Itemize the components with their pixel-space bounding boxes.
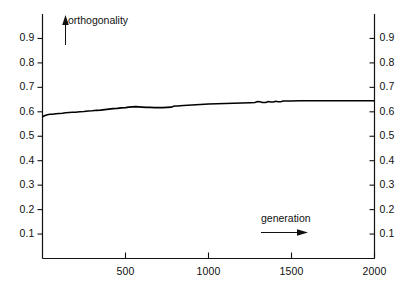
y-tick-label-left-0.7: 0.7 <box>5 81 35 92</box>
y-tick-label-right-0.9: 0.9 <box>380 32 403 43</box>
y-tick-label-right-0.3: 0.3 <box>380 179 403 190</box>
x-tick-label-1500: 1500 <box>272 266 312 277</box>
y-tick-label-left-0.5: 0.5 <box>5 130 35 141</box>
y-tick-label-right-0.7: 0.7 <box>380 81 403 92</box>
y-tick-label-right-0.1: 0.1 <box>380 228 403 239</box>
y-tick-label-right-0.2: 0.2 <box>380 204 403 215</box>
x-tick-label-1000: 1000 <box>189 266 229 277</box>
y-tick-label-left-0.8: 0.8 <box>5 57 35 68</box>
y-tick-label-left-0.3: 0.3 <box>5 179 35 190</box>
y-tick-label-left-0.9: 0.9 <box>5 32 35 43</box>
plot-canvas <box>0 0 403 289</box>
x-axis-ticks <box>126 253 375 259</box>
y-axis-left-ticks <box>38 38 43 234</box>
generation-right-arrow-icon <box>261 229 308 236</box>
y-tick-label-right-0.8: 0.8 <box>380 57 403 68</box>
orthogonality-line-series <box>43 101 375 117</box>
x-axis-caption: generation <box>261 212 311 224</box>
y-tick-label-left-0.2: 0.2 <box>5 204 35 215</box>
y-tick-label-left-0.1: 0.1 <box>5 228 35 239</box>
y-tick-label-right-0.4: 0.4 <box>380 155 403 166</box>
chart-figure: orthogonality generation 0.10.20.30.40.5… <box>0 0 403 289</box>
y-axis-caption: orthogonality <box>68 14 128 26</box>
x-tick-label-2000: 2000 <box>355 266 395 277</box>
y-axis-right-ticks <box>370 38 375 234</box>
x-tick-label-500: 500 <box>106 266 146 277</box>
y-tick-label-left-0.4: 0.4 <box>5 155 35 166</box>
y-tick-label-left-0.6: 0.6 <box>5 106 35 117</box>
y-tick-label-right-0.5: 0.5 <box>380 130 403 141</box>
y-tick-label-right-0.6: 0.6 <box>380 106 403 117</box>
